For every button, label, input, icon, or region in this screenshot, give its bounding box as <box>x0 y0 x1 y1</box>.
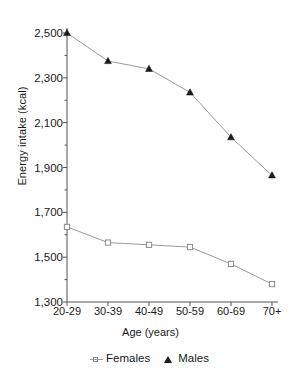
legend-item-females[interactable]: Females <box>92 352 150 364</box>
data-point-marker <box>105 240 110 245</box>
axes-group <box>63 28 278 306</box>
plot-area <box>0 0 301 377</box>
x-tick-label: 50-59 <box>176 305 204 317</box>
x-tick-label: 20-29 <box>53 305 81 317</box>
data-point-marker <box>146 242 151 247</box>
x-tick-label: 30-39 <box>94 305 122 317</box>
chart-legend: FemalesMales <box>0 352 301 364</box>
data-point-marker <box>187 89 194 95</box>
series-line-males <box>67 33 272 175</box>
x-tick-label: 60-69 <box>217 305 245 317</box>
data-point-marker <box>269 281 274 286</box>
series-group <box>64 29 276 286</box>
open-square-marker-icon <box>92 354 101 363</box>
data-point-marker <box>64 224 69 229</box>
x-tick-label: 40-49 <box>135 305 163 317</box>
data-point-marker <box>105 57 112 63</box>
x-axis-title: Age (years) <box>0 326 301 338</box>
series-line-females <box>67 227 272 284</box>
legend-label: Females <box>106 352 150 364</box>
data-point-marker <box>228 261 233 266</box>
x-tick-label: 70+ <box>263 305 282 317</box>
filled-triangle-marker-icon <box>164 354 173 363</box>
energy-intake-line-chart: Energy intake (kcal) 1,3001,5001,7001,90… <box>0 0 301 377</box>
legend-item-males[interactable]: Males <box>164 352 209 364</box>
legend-label: Males <box>178 352 209 364</box>
data-point-marker <box>187 244 192 249</box>
